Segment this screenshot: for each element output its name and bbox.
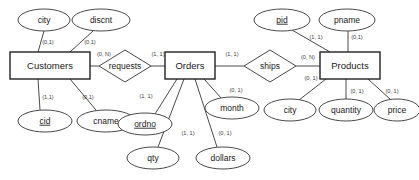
relationship-label-requests: requests	[109, 61, 142, 71]
entity-orders[interactable]: Orders	[165, 52, 215, 79]
entity-customers[interactable]: Customers	[10, 52, 90, 79]
attribute-cid[interactable]: cid	[18, 110, 72, 132]
entity-label-orders: Orders	[175, 60, 204, 71]
cardinality-label-card-qty: (1, 1)	[181, 130, 194, 136]
attribute-label-dollars: dollars	[210, 153, 235, 163]
cardinality-label-card-cid: (1,1)	[42, 94, 54, 100]
attribute-dollars[interactable]: dollars	[196, 147, 250, 169]
attribute-label-pname: pname	[334, 15, 360, 25]
connection-line-customers-cid	[38, 79, 40, 110]
cardinality-label-card-city-cust: (0,1)	[42, 39, 54, 45]
er-diagram-canvas: requestsships citydiscntcidcnameordnoqty…	[0, 0, 419, 180]
attribute-city-cust[interactable]: city	[18, 9, 70, 31]
cardinality-label-card-pname: (0,1)	[351, 34, 363, 40]
attribute-label-month: month	[220, 103, 244, 113]
er-diagram-svg: requestsships citydiscntcidcnameordnoqty…	[0, 0, 419, 180]
attribute-city-prod[interactable]: city	[264, 99, 316, 121]
attribute-label-cname: cname	[93, 116, 119, 126]
connection-line-orders-ordno	[155, 79, 177, 114]
cardinality-label-card-requests-right: (1, 1)	[151, 51, 164, 57]
entity-label-customers: Customers	[27, 60, 73, 71]
cardinality-label-card-ordno: (1, 1)	[139, 93, 152, 99]
attribute-label-price: price	[388, 105, 407, 115]
attribute-ordno[interactable]: ordno	[118, 113, 172, 135]
cardinality-label-card-quantity: (0, 1)	[350, 88, 363, 94]
cardinality-label-card-discnt: (0,1)	[84, 39, 96, 45]
cardinality-label-card-ships-left: (1, 1)	[225, 51, 238, 57]
attribute-label-qty: qty	[147, 153, 159, 163]
attribute-label-pid: pid	[276, 15, 288, 25]
attribute-label-quantity: quantity	[331, 105, 362, 115]
attribute-discnt[interactable]: discnt	[72, 9, 130, 31]
cardinality-label-card-city-prod: (0, 1)	[304, 75, 317, 81]
relationship-label-ships: ships	[260, 61, 280, 71]
attribute-label-city-cust: city	[38, 15, 52, 25]
connection-line-orders-month	[204, 79, 222, 99]
attribute-pid[interactable]: pid	[254, 9, 310, 31]
entity-label-products: Products	[331, 60, 369, 71]
attribute-label-cid: cid	[40, 116, 51, 126]
attribute-price[interactable]: price	[374, 99, 419, 121]
cardinality-label-card-month: (0, 1)	[229, 87, 242, 93]
cardinality-label-card-dollars: (0, 1)	[218, 130, 231, 136]
entities-group: CustomersOrdersProducts	[10, 52, 380, 79]
attribute-label-city-prod: city	[284, 105, 298, 115]
connection-line-products-pid	[292, 30, 330, 52]
connection-line-products-city	[299, 79, 326, 100]
attribute-pname[interactable]: pname	[319, 9, 375, 31]
attribute-qty[interactable]: qty	[127, 147, 179, 169]
cardinality-label-card-cname: (0,1)	[82, 94, 94, 100]
cardinality-label-card-pid: (1, 1)	[309, 34, 322, 40]
attribute-label-ordno: ordno	[134, 119, 156, 129]
entity-products[interactable]: Products	[320, 52, 380, 79]
attribute-month[interactable]: month	[205, 97, 259, 119]
cardinality-label-card-requests-left: (0, N)	[97, 51, 111, 57]
attribute-quantity[interactable]: quantity	[319, 99, 373, 121]
relationship-ships[interactable]: ships	[244, 50, 296, 82]
cardinality-label-card-price: (0, 1)	[385, 88, 398, 94]
attribute-label-discnt: discnt	[90, 15, 113, 25]
cardinality-label-card-ships-right: (0, N)	[301, 54, 315, 60]
